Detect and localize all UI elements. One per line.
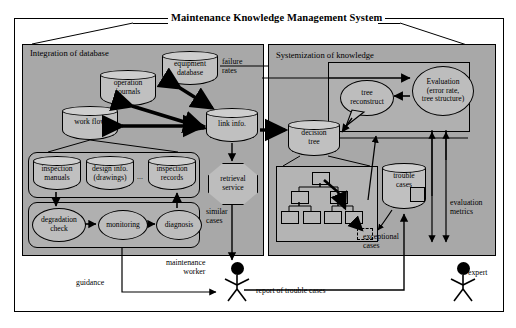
- actor-maintenance-worker-label: maintenanceworker: [166, 258, 205, 276]
- title-leader-left: [133, 23, 168, 24]
- edge-label-similar-cases: similarcases: [206, 207, 228, 225]
- db-equipment-database-label: equipmentdatabase: [174, 59, 206, 77]
- edge-label-failure-rates: failurerates: [222, 57, 242, 75]
- page-title: Maintenance Knowledge Management System: [168, 12, 385, 23]
- process-diagnosis: diagnosis: [156, 210, 202, 240]
- db-inspection-manuals: inspectionmanuals: [33, 156, 81, 190]
- tree-node-leaf-4: [345, 211, 363, 224]
- db-trouble-cases: troublecases: [382, 163, 426, 209]
- panel-systemization-label: Systemization of knowledge: [276, 50, 374, 60]
- db-inspection-records: inspectionrecords: [148, 156, 196, 190]
- edge-label-exceptional-cases: exceptionalcases: [363, 232, 399, 250]
- process-diagnosis-label: diagnosis: [165, 221, 194, 230]
- node-tree-reconstruct-label: treereconstruct: [350, 89, 384, 106]
- db-design-info-label: design info.(drawings): [92, 164, 128, 182]
- db-design-info: design info.(drawings): [86, 156, 134, 190]
- db-inspection-records-label: inspectionrecords: [156, 164, 187, 182]
- tree-node-leaf-2: [303, 211, 321, 224]
- db-work-flow: work flow: [62, 106, 118, 140]
- tree-node-leaf-1: [281, 211, 299, 224]
- actor-expert-label: expert: [468, 268, 487, 277]
- node-tree-reconstruct: treereconstruct: [340, 80, 394, 116]
- db-decision-tree: decisiontree: [288, 120, 340, 156]
- trouble-case-item-icon: [410, 187, 425, 202]
- process-retrieval-service: retrievalservice: [208, 163, 258, 205]
- db-equipment-database: equipmentdatabase: [162, 51, 218, 85]
- db-operation-journals: operationjournals: [100, 70, 156, 106]
- diagram-canvas: Maintenance Knowledge Management System …: [0, 0, 516, 328]
- db-work-flow-label: work flow: [74, 117, 105, 126]
- panel-integration-label: Integration of database: [30, 48, 109, 58]
- process-retrieval-service-label: retrievalservice: [220, 175, 245, 193]
- tree-node-l1-left: [291, 191, 309, 204]
- node-evaluation: Evaluation(error rate,tree structure): [412, 66, 474, 116]
- actor-maintenance-worker: [222, 262, 252, 302]
- edge-label-guidance: guidance: [76, 278, 104, 287]
- db-decision-tree-label: decisiontree: [301, 128, 326, 146]
- process-degradation-check: degradationcheck: [32, 208, 86, 242]
- title-leader-right: [378, 23, 400, 24]
- db-inspection-manuals-label: inspectionmanuals: [41, 164, 72, 182]
- process-monitoring: monitoring: [98, 210, 148, 240]
- db-operation-journals-label: operationjournals: [114, 78, 143, 96]
- edge-label-evaluation-metrics: evaluationmetrics: [450, 198, 482, 216]
- node-evaluation-label: Evaluation(error rate,tree structure): [422, 78, 464, 104]
- tree-node-leaf-3: [324, 211, 342, 224]
- process-degradation-check-label: degradationcheck: [41, 216, 77, 233]
- tree-node-l1-right: [330, 191, 348, 204]
- process-monitoring-label: monitoring: [106, 221, 140, 230]
- db-link-info-label: link info.: [218, 119, 246, 128]
- tree-node-root: [312, 172, 330, 185]
- edge-label-report-of-trouble-cases: report of trouble cases: [256, 286, 326, 295]
- db-ellipsis-label: ...: [137, 172, 143, 181]
- db-link-info: link info.: [206, 108, 258, 142]
